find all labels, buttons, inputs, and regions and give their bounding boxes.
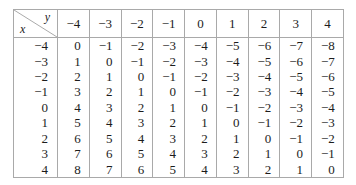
table-row: 043210−1−2−3−4 <box>14 100 344 115</box>
cell-r5-c0: 5 <box>58 115 90 130</box>
cell-r7-c8: −1 <box>312 146 344 161</box>
cell-r2-c0: 2 <box>58 69 90 84</box>
row-header-7: 3 <box>14 146 58 161</box>
table-row: −310−1−2−3−4−5−6−7 <box>14 53 344 68</box>
table-row: 376543210−1 <box>14 146 344 161</box>
cell-r3-c6: −3 <box>248 84 280 99</box>
corner-header-cell: y x <box>14 10 58 38</box>
row-header-0: −4 <box>14 38 58 54</box>
cell-r1-c3: −2 <box>153 53 185 68</box>
cell-r1-c6: −5 <box>248 53 280 68</box>
row-header-2: −2 <box>14 69 58 84</box>
cell-r6-c8: −2 <box>312 131 344 146</box>
cell-r4-c1: 3 <box>89 100 121 115</box>
column-header-1: −3 <box>89 10 121 38</box>
cell-r4-c6: −2 <box>248 100 280 115</box>
cell-r8-c5: 3 <box>216 162 248 178</box>
cell-r7-c3: 4 <box>153 146 185 161</box>
cell-r5-c8: −3 <box>312 115 344 130</box>
cell-r2-c3: −1 <box>153 69 185 84</box>
cell-r4-c7: −3 <box>280 100 312 115</box>
cell-r3-c2: 1 <box>121 84 153 99</box>
cell-r3-c3: 0 <box>153 84 185 99</box>
cell-r1-c8: −7 <box>312 53 344 68</box>
cell-r6-c2: 4 <box>121 131 153 146</box>
cell-r7-c6: 1 <box>248 146 280 161</box>
row-header-1: −3 <box>14 53 58 68</box>
header-row: y x −4 −3 −2 −1 0 1 2 3 4 <box>14 10 344 38</box>
cell-r0-c4: −4 <box>185 38 217 54</box>
cell-r0-c2: −2 <box>121 38 153 54</box>
cell-r5-c7: −2 <box>280 115 312 130</box>
cell-r2-c6: −4 <box>248 69 280 84</box>
table-row: 26543210−1−2 <box>14 131 344 146</box>
cell-r7-c7: 0 <box>280 146 312 161</box>
value-table-container: y x −4 −3 −2 −1 0 1 2 3 4 −40−1−2−3−4−5−… <box>13 9 343 178</box>
cell-r6-c3: 3 <box>153 131 185 146</box>
cell-r7-c1: 6 <box>89 146 121 161</box>
cell-r6-c0: 6 <box>58 131 90 146</box>
cell-r3-c1: 2 <box>89 84 121 99</box>
cell-r5-c5: 0 <box>216 115 248 130</box>
subtraction-value-table: y x −4 −3 −2 −1 0 1 2 3 4 −40−1−2−3−4−5−… <box>13 9 344 178</box>
cell-r3-c5: −2 <box>216 84 248 99</box>
cell-r6-c4: 2 <box>185 131 217 146</box>
cell-r0-c0: 0 <box>58 38 90 54</box>
column-header-4: 0 <box>185 10 217 38</box>
cell-r2-c2: 0 <box>121 69 153 84</box>
cell-r1-c7: −6 <box>280 53 312 68</box>
cell-r6-c6: 0 <box>248 131 280 146</box>
cell-r2-c5: −3 <box>216 69 248 84</box>
cell-r8-c1: 7 <box>89 162 121 178</box>
column-header-3: −1 <box>153 10 185 38</box>
cell-r4-c2: 2 <box>121 100 153 115</box>
cell-r3-c0: 3 <box>58 84 90 99</box>
cell-r3-c8: −5 <box>312 84 344 99</box>
cell-r4-c8: −4 <box>312 100 344 115</box>
table-row: −13210−1−2−3−4−5 <box>14 84 344 99</box>
cell-r1-c0: 1 <box>58 53 90 68</box>
cell-r8-c3: 5 <box>153 162 185 178</box>
cell-r5-c2: 3 <box>121 115 153 130</box>
cell-r0-c3: −3 <box>153 38 185 54</box>
cell-r3-c4: −1 <box>185 84 217 99</box>
cell-r0-c1: −1 <box>89 38 121 54</box>
cell-r8-c6: 2 <box>248 162 280 178</box>
row-variable-label: x <box>20 23 25 36</box>
column-header-8: 4 <box>312 10 344 38</box>
column-header-7: 3 <box>280 10 312 38</box>
cell-r8-c7: 1 <box>280 162 312 178</box>
column-header-6: 2 <box>248 10 280 38</box>
cell-r1-c4: −3 <box>185 53 217 68</box>
cell-r7-c0: 7 <box>58 146 90 161</box>
cell-r0-c6: −6 <box>248 38 280 54</box>
cell-r6-c7: −1 <box>280 131 312 146</box>
table-header: y x −4 −3 −2 −1 0 1 2 3 4 <box>14 10 344 38</box>
cell-r5-c4: 1 <box>185 115 217 130</box>
cell-r6-c1: 5 <box>89 131 121 146</box>
cell-r5-c6: −1 <box>248 115 280 130</box>
row-header-3: −1 <box>14 84 58 99</box>
column-variable-label: y <box>45 11 50 24</box>
row-header-4: 0 <box>14 100 58 115</box>
cell-r5-c3: 2 <box>153 115 185 130</box>
table-row: 4876543210 <box>14 162 344 178</box>
cell-r1-c5: −4 <box>216 53 248 68</box>
table-row: −40−1−2−3−4−5−6−7−8 <box>14 38 344 54</box>
corner-inner: y x <box>14 10 57 37</box>
cell-r8-c8: 0 <box>312 162 344 178</box>
cell-r0-c7: −7 <box>280 38 312 54</box>
row-header-6: 2 <box>14 131 58 146</box>
table-body: −40−1−2−3−4−5−6−7−8−310−1−2−3−4−5−6−7−22… <box>14 38 344 178</box>
cell-r0-c8: −8 <box>312 38 344 54</box>
column-header-2: −2 <box>121 10 153 38</box>
cell-r4-c4: 0 <box>185 100 217 115</box>
column-header-0: −4 <box>58 10 90 38</box>
cell-r4-c3: 1 <box>153 100 185 115</box>
cell-r1-c2: −1 <box>121 53 153 68</box>
cell-r4-c5: −1 <box>216 100 248 115</box>
cell-r3-c7: −4 <box>280 84 312 99</box>
row-header-5: 1 <box>14 115 58 130</box>
cell-r8-c0: 8 <box>58 162 90 178</box>
cell-r7-c2: 5 <box>121 146 153 161</box>
